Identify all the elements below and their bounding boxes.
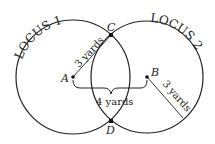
label-d: D <box>105 124 115 137</box>
locus2-label: LOCUS 2 <box>150 11 206 52</box>
locus-diagram: LOCUS 1 LOCUS 2 3 yards 3 yards A B C D … <box>0 0 215 144</box>
radius-label-2: 3 yards <box>160 78 193 113</box>
locus1-label: LOCUS 1 <box>12 13 64 61</box>
point-d <box>109 119 113 123</box>
distance-brace <box>73 80 147 94</box>
point-b <box>145 75 149 79</box>
label-b: B <box>150 66 159 79</box>
point-a <box>71 75 75 79</box>
label-a: A <box>60 72 69 85</box>
label-c: C <box>107 21 116 34</box>
distance-label: 4 yards <box>96 96 133 107</box>
radius-label-1: 3 yards <box>72 34 106 69</box>
